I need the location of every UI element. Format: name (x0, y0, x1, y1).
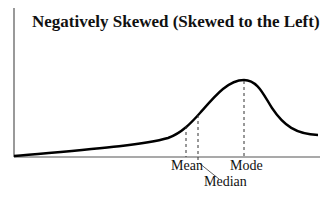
mode-label: Mode (230, 158, 263, 174)
mean-label: Mean (171, 158, 203, 174)
distribution-chart (0, 0, 332, 202)
median-label: Median (204, 174, 247, 190)
distribution-curve (14, 80, 318, 156)
